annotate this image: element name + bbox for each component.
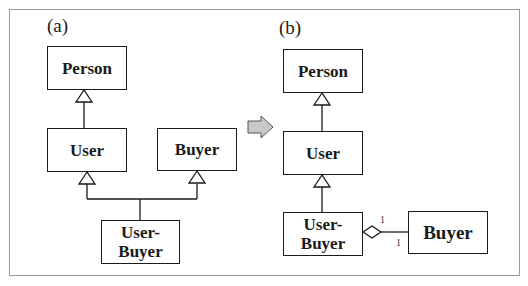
generalization-triangle-icon — [76, 90, 92, 102]
generalization-triangle-icon — [314, 175, 330, 187]
generalization-triangle-icon — [79, 172, 95, 184]
right-arrow-icon — [248, 116, 273, 138]
generalization-triangle-icon — [189, 171, 205, 183]
diagram-canvas: (a) Person User Buyer User- Buyer (b) Pe… — [0, 0, 528, 286]
aggregation-diamond-icon — [363, 226, 381, 238]
connector-lines — [0, 0, 528, 286]
generalization-triangle-icon — [314, 93, 330, 105]
